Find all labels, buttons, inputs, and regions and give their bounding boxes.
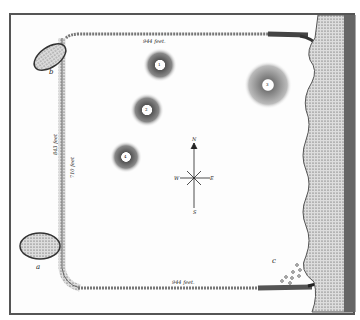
compass-n: N bbox=[192, 136, 196, 142]
compass-e: E bbox=[210, 175, 214, 181]
label-left-inner: 710 feet bbox=[69, 157, 75, 178]
river-edge bbox=[344, 15, 355, 312]
compass-rose bbox=[180, 143, 210, 208]
mound-2-label: 2 bbox=[145, 107, 148, 112]
small-mounds bbox=[281, 264, 302, 285]
letter-c: c bbox=[272, 257, 276, 265]
top-wall bbox=[66, 34, 318, 46]
mound-a bbox=[20, 233, 60, 259]
earthwork-plan bbox=[0, 0, 360, 320]
compass-w: W bbox=[174, 175, 179, 181]
label-left-outer: 843 feet bbox=[52, 134, 58, 155]
label-bottom-wall: 944 feet. bbox=[172, 279, 195, 285]
mound-3-label: 3 bbox=[266, 82, 269, 87]
letter-b: b bbox=[49, 68, 53, 76]
mound-1-label: 1 bbox=[158, 62, 161, 67]
mound-4-label: 4 bbox=[124, 154, 127, 159]
letter-a: a bbox=[36, 263, 40, 271]
bottom-wall bbox=[78, 283, 320, 288]
label-top-wall: 944 feet. bbox=[143, 38, 166, 44]
compass-s: S bbox=[193, 209, 196, 215]
